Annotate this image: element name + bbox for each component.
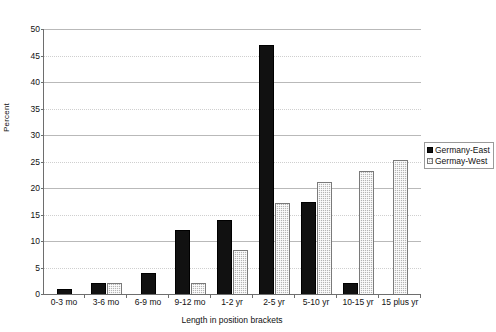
bar	[141, 273, 156, 294]
bar-group	[44, 29, 86, 294]
x-axis-tick-label: 0-3 mo	[43, 298, 85, 307]
legend-label-germany-east: Germany-East	[435, 145, 490, 156]
y-axis-tick-label: 5	[6, 263, 40, 272]
x-axis-tick-label: 6-9 mo	[127, 298, 169, 307]
x-axis-tick-label: 15 plus yr	[379, 298, 421, 307]
bar-chart: Percent 05101520253035404550 0-3 mo3-6 m…	[0, 0, 496, 332]
bar	[107, 283, 122, 294]
y-axis-tick-label: 20	[6, 184, 40, 193]
y-axis-tick-label: 45	[6, 51, 40, 60]
x-axis-tick-label: 5-10 yr	[295, 298, 337, 307]
x-axis-tick-label: 10-15 yr	[337, 298, 379, 307]
east-series-swatch	[427, 147, 433, 153]
bar-group	[128, 29, 170, 294]
bar	[317, 182, 332, 294]
bar-group	[337, 29, 379, 294]
y-axis-tick-label: 40	[6, 78, 40, 87]
legend-item-germany-east: Germany-East	[427, 145, 490, 156]
x-axis-tick-label: 9-12 mo	[169, 298, 211, 307]
y-axis-tick-label: 0	[6, 290, 40, 299]
y-axis-tick-label: 15	[6, 210, 40, 219]
plot-area: 05101520253035404550	[43, 29, 421, 295]
bar	[301, 202, 316, 294]
x-axis-tick-label: 1-2 yr	[211, 298, 253, 307]
bar-group	[295, 29, 337, 294]
x-axis-labels: 0-3 mo3-6 mo6-9 mo9-12 mo1-2 yr2-5 yr5-1…	[43, 298, 421, 307]
bar	[393, 160, 408, 294]
bar	[259, 45, 274, 294]
x-axis-title: Length in position brackets	[43, 315, 421, 325]
y-axis-tick-label: 30	[6, 131, 40, 140]
bar	[233, 250, 248, 294]
west-series-swatch	[427, 158, 433, 164]
bar-group	[212, 29, 254, 294]
y-axis-tick-label: 25	[6, 157, 40, 166]
y-axis-tick-label: 35	[6, 104, 40, 113]
x-axis-tick-label: 3-6 mo	[85, 298, 127, 307]
y-axis-tick-label: 50	[6, 25, 40, 34]
legend: Germany-East Germay-West	[424, 142, 494, 169]
bar	[359, 171, 374, 294]
bar	[175, 230, 190, 294]
bar	[217, 220, 232, 294]
bar-groups	[44, 29, 421, 294]
legend-item-germay-west: Germay-West	[427, 156, 490, 167]
bar	[191, 283, 206, 294]
x-axis-tick-label: 2-5 yr	[253, 298, 295, 307]
bar	[275, 203, 290, 294]
bar-group	[379, 29, 421, 294]
bar-group	[86, 29, 128, 294]
bar	[343, 283, 358, 294]
bar-group	[253, 29, 295, 294]
bar	[91, 283, 106, 294]
legend-label-germay-west: Germay-West	[435, 156, 487, 167]
y-axis-tick-label: 10	[6, 237, 40, 246]
bar	[57, 289, 72, 294]
bar-group	[170, 29, 212, 294]
